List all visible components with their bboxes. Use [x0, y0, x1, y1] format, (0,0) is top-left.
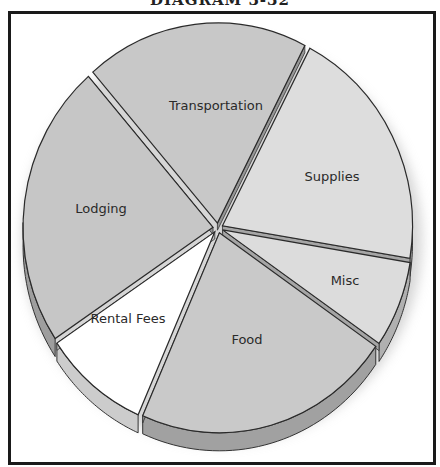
slice-label-rental-fees: Rental Fees — [90, 311, 165, 326]
slice-label-transportation: Transportation — [168, 98, 263, 113]
pie-chart: TransportationSuppliesMiscFoodRental Fee… — [0, 0, 440, 467]
pie-slices — [23, 23, 412, 451]
slice-label-lodging: Lodging — [75, 201, 127, 216]
slice-label-supplies: Supplies — [305, 169, 360, 184]
slice-label-food: Food — [231, 332, 262, 347]
slice-label-misc: Misc — [331, 273, 360, 288]
